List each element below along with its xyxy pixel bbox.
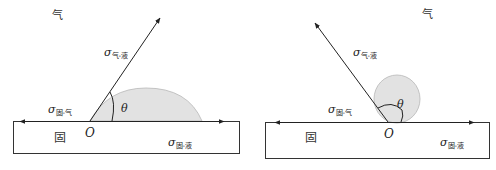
origin-label-left: O xyxy=(85,127,95,139)
sigma-symbol: σ xyxy=(48,103,56,116)
contact-angle-label-left: θ xyxy=(121,103,128,114)
sigma-symbol: σ xyxy=(104,46,112,59)
contact-angle-label-right: θ xyxy=(397,99,404,110)
contact-angle-diagram xyxy=(0,0,496,170)
tension-subscript: 固-液 xyxy=(448,142,465,150)
origin-label-right: O xyxy=(384,128,394,140)
solid-surface-left xyxy=(14,122,240,154)
gas-phase-label-left: 气 xyxy=(52,10,63,21)
sigma-symbol: σ xyxy=(353,46,361,59)
gas-phase-label-right: 气 xyxy=(422,9,433,20)
sigma-symbol: σ xyxy=(328,103,336,116)
solid-liquid-tension-label-left: σ固-液 xyxy=(168,137,192,150)
liquid-drop-left xyxy=(90,88,202,121)
gas-liquid-tension-label-left: σ气-液 xyxy=(104,47,128,60)
tension-subscript: 固-气 xyxy=(56,109,73,117)
sigma-symbol: σ xyxy=(168,136,176,149)
tension-subscript: 气-液 xyxy=(361,52,378,60)
solid-phase-label-left: 固 xyxy=(54,132,66,144)
tension-subscript: 固-液 xyxy=(176,142,193,150)
tension-subscript: 固-气 xyxy=(336,109,353,117)
tension-subscript: 气-液 xyxy=(112,52,129,60)
solid-phase-label-right: 固 xyxy=(305,132,317,144)
solid-gas-tension-label-left: σ固-气 xyxy=(48,104,72,117)
left-panel xyxy=(14,18,240,154)
gas-liquid-tension-label-right: σ气-液 xyxy=(353,47,377,60)
solid-gas-tension-label-right: σ固-气 xyxy=(328,104,352,117)
sigma-symbol: σ xyxy=(440,136,448,149)
solid-liquid-tension-label-right: σ固-液 xyxy=(440,137,464,150)
